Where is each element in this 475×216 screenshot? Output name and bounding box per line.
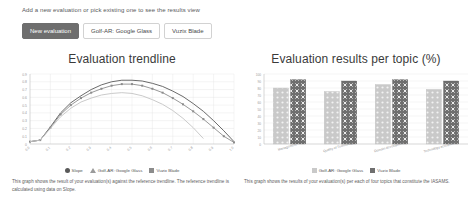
topics-caption: This graph shows the results of your eva…: [240, 178, 472, 186]
evaluation-tab-vuzix-blade[interactable]: Vuzix Blade: [164, 23, 211, 39]
svg-text:0.4: 0.4: [22, 111, 27, 115]
svg-text:0.5: 0.5: [126, 146, 132, 152]
svg-text:0.9: 0.9: [208, 146, 214, 152]
page-hint: Add a new evaluation or pick existing on…: [22, 7, 200, 13]
legend-item-bar-golf-ar: Golf-AR: Google Glass: [312, 168, 364, 173]
svg-text:40: 40: [257, 115, 261, 119]
svg-text:0.1: 0.1: [45, 146, 51, 152]
svg-text:0: 0: [259, 143, 261, 147]
svg-text:0.4: 0.4: [106, 146, 112, 152]
topics-chart-title: Evaluation results per topic (%): [240, 52, 472, 66]
svg-text:0.6: 0.6: [22, 96, 27, 100]
topics-panel: Evaluation results per topic (%) 0102030…: [240, 52, 472, 186]
legend-marker-triangle-icon: [90, 168, 96, 173]
svg-text:0.2: 0.2: [22, 127, 27, 131]
svg-text:0.8: 0.8: [188, 146, 194, 152]
svg-text:0.0: 0.0: [24, 146, 30, 152]
legend-marker-circle-icon: [65, 168, 70, 173]
svg-text:0.1: 0.1: [22, 135, 27, 139]
legend-swatch-dots-icon: [312, 168, 317, 173]
svg-text:10: 10: [257, 136, 261, 140]
svg-text:20: 20: [257, 129, 261, 133]
topics-plot: 0102030405060708090100ManagementQuality …: [240, 70, 472, 166]
svg-text:50: 50: [257, 108, 261, 112]
new-evaluation-button[interactable]: New evaluation: [22, 23, 79, 39]
svg-text:80: 80: [257, 87, 261, 91]
svg-text:0.7: 0.7: [22, 88, 27, 92]
trendline-panel: Evaluation trendline 00.10.20.30.40.50.6…: [8, 52, 236, 195]
legend-label-vuzix: Vuzix Blade: [156, 168, 179, 173]
svg-text:60: 60: [257, 101, 261, 105]
results-view: Add a new evaluation or pick existing on…: [0, 0, 475, 216]
svg-text:0.5: 0.5: [22, 104, 27, 108]
topics-svg: 0102030405060708090100ManagementQuality …: [240, 70, 472, 166]
legend-label-bar-vuzix: Vuzix Blade: [377, 168, 400, 173]
evaluation-tab-golf-ar[interactable]: Golf-AR: Google Glass: [83, 23, 160, 39]
legend-swatch-crosses-icon: [370, 168, 375, 173]
evaluation-tab-bar: New evaluation Golf-AR: Google Glass Vuz…: [22, 23, 212, 39]
svg-text:0.6: 0.6: [147, 146, 153, 152]
legend-item-slope: Slope: [65, 168, 83, 173]
svg-text:0.7: 0.7: [167, 146, 173, 152]
svg-text:70: 70: [257, 94, 261, 98]
svg-text:100: 100: [256, 73, 262, 77]
trendline-chart-title: Evaluation trendline: [8, 52, 236, 66]
legend-label-bar-golf-ar: Golf-AR: Google Glass: [319, 168, 364, 173]
trendline-svg: 00.10.20.30.40.50.60.70.80.90.00.10.20.3…: [8, 70, 236, 166]
svg-text:0.8: 0.8: [22, 80, 27, 84]
svg-text:0.3: 0.3: [86, 146, 92, 152]
legend-label-slope: Slope: [72, 168, 83, 173]
trendline-caption: This graph shows the result of your eval…: [8, 178, 236, 195]
topics-legend: Golf-AR: Google Glass Vuzix Blade: [240, 168, 472, 173]
svg-text:30: 30: [257, 122, 261, 126]
svg-text:90: 90: [257, 80, 261, 84]
legend-item-vuzix: Vuzix Blade: [149, 168, 179, 173]
legend-item-golf-ar: Golf-AR: Google Glass: [90, 168, 143, 173]
trendline-legend: Slope Golf-AR: Google Glass Vuzix Blade: [8, 168, 236, 173]
svg-text:0.2: 0.2: [65, 146, 71, 152]
svg-text:1.0: 1.0: [228, 146, 234, 152]
legend-label-golf-ar: Golf-AR: Google Glass: [98, 168, 143, 173]
svg-text:0.3: 0.3: [22, 119, 27, 123]
legend-item-bar-vuzix: Vuzix Blade: [370, 168, 400, 173]
legend-marker-square-icon: [149, 168, 154, 173]
trendline-plot: 00.10.20.30.40.50.60.70.80.90.00.10.20.3…: [8, 70, 236, 166]
svg-text:0.9: 0.9: [22, 73, 27, 77]
